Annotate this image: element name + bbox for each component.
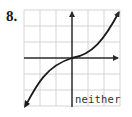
answer-label: neither — [75, 94, 121, 105]
